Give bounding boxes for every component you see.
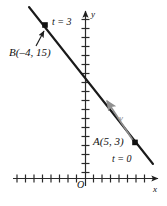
origin-label: O [77, 180, 84, 190]
y-axis [82, 11, 90, 186]
t-label-at-a: t = 0 [112, 154, 132, 164]
x-axis-label: x [153, 185, 157, 194]
vector-line-figure: t = 3 B(–4, 15) A(5, 3) t = 0 v O x y [0, 0, 167, 206]
vector-label-v: v [119, 114, 123, 123]
point-marker-a [132, 140, 138, 146]
t-label-at-b: t = 3 [52, 17, 72, 27]
point-label-a: A(5, 3) [93, 136, 124, 147]
leader-arrow-b [36, 31, 44, 46]
point-marker-b [42, 22, 48, 28]
y-axis-label: y [91, 10, 95, 19]
coordinate-plane-svg [0, 0, 167, 206]
point-label-b: B(–4, 15) [9, 47, 51, 58]
